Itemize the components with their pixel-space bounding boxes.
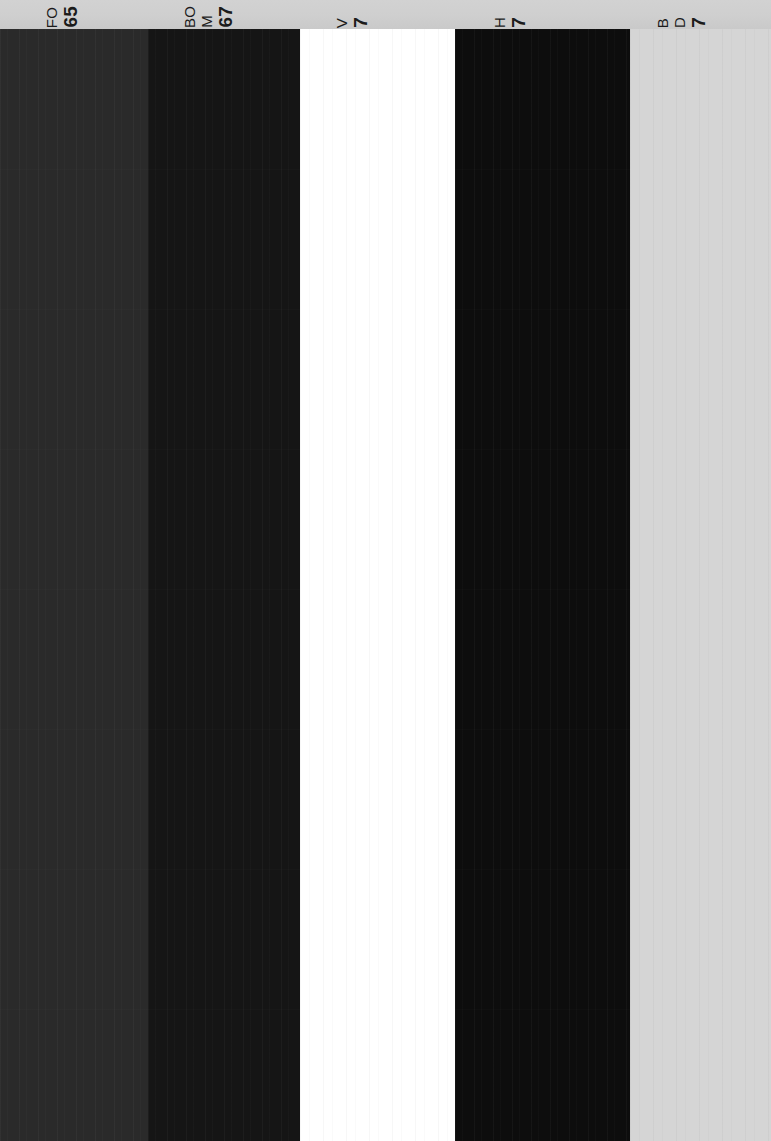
rotated-page-canvas: FO65BOM67V7H7BD7 [0,0,771,1141]
band-group [0,29,771,1141]
band-2 [148,29,300,1141]
label-cluster-5-value-2: 7 [689,17,708,28]
band-4-striation [455,29,630,1141]
label-cluster-3-name-0: V [334,18,349,28]
label-cluster-2[interactable]: BOM67 [182,0,235,28]
label-cluster-2-value-2: 67 [216,6,235,28]
band-2-striation [148,29,300,1141]
band-3-striation [300,29,455,1141]
label-cluster-1[interactable]: FO65 [44,0,80,28]
label-cluster-3-value-1: 7 [351,17,370,28]
header-strip: FO65BOM67V7H7BD7 [0,0,771,29]
label-cluster-1-value-1: 65 [61,6,80,28]
band-5 [630,29,771,1141]
label-cluster-5-name-0: B [655,18,670,28]
band-1 [0,29,148,1141]
label-cluster-2-name-1: M [199,15,214,28]
label-cluster-4[interactable]: H7 [492,0,528,28]
band-4 [455,29,630,1141]
band-5-striation [630,29,771,1141]
band-3 [300,29,455,1141]
label-cluster-1-name-0: FO [44,7,59,28]
label-cluster-5-name-1: D [672,17,687,28]
label-cluster-5[interactable]: BD7 [655,0,708,28]
band-1-striation [0,29,148,1141]
label-cluster-4-name-0: H [492,17,507,28]
label-cluster-2-name-0: BO [182,6,197,28]
label-cluster-3[interactable]: V7 [334,0,370,28]
label-cluster-4-value-1: 7 [509,17,528,28]
